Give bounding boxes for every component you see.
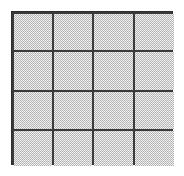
grid-cell [14, 131, 52, 166]
figure-canvas [0, 0, 184, 176]
grid-cell [94, 14, 133, 50]
grid-cell [94, 52, 133, 90]
grid-cell [54, 14, 92, 50]
grid-cell [14, 92, 52, 129]
grid-cell [94, 131, 133, 166]
grid-cell [54, 131, 92, 166]
grid-cell [135, 14, 174, 50]
grid-cell [54, 92, 92, 129]
grid-cell [54, 52, 92, 90]
grid-cell [14, 14, 52, 50]
grid-cell [135, 52, 174, 90]
grid-cell [14, 52, 52, 90]
grid-cell [135, 131, 174, 166]
grid-cell [135, 92, 174, 129]
grid-cell [94, 92, 133, 129]
grid-diagram [11, 11, 173, 165]
